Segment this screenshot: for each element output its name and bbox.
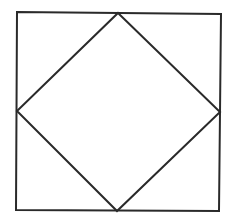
outer-square	[16, 12, 221, 211]
diagram-canvas	[0, 0, 232, 222]
inscribed-diamond	[17, 13, 220, 211]
